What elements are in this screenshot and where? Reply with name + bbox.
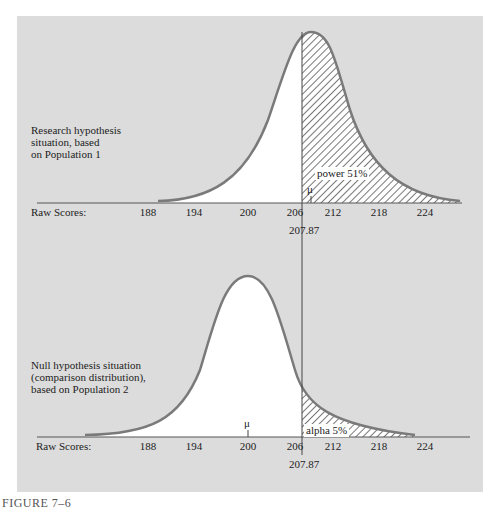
- bottom-tick: 224: [417, 440, 434, 452]
- top-tick: 206: [287, 206, 304, 218]
- top-tick: 194: [186, 206, 203, 218]
- top-axis-label: Raw Scores:: [31, 206, 86, 218]
- research-hypothesis-label: Research hypothesis situation, based on …: [31, 124, 121, 160]
- bottom-tick: 188: [140, 440, 157, 452]
- figure-caption: FIGURE 7–6: [2, 496, 71, 511]
- top-tick: 212: [325, 206, 342, 218]
- top-tick: 224: [417, 206, 434, 218]
- top-tick: 218: [371, 206, 388, 218]
- top-mean-symbol: μ: [307, 183, 313, 195]
- research-distribution-curve: [158, 32, 460, 203]
- top-tick: 200: [240, 206, 257, 218]
- bottom-tick: 218: [371, 440, 388, 452]
- bottom-tick: 194: [186, 440, 203, 452]
- alpha-label: alpha 5%: [304, 424, 349, 437]
- power-label: power 51%: [315, 167, 369, 180]
- null-distribution-curve: [85, 276, 415, 437]
- bottom-tick: 212: [325, 440, 342, 452]
- bottom-cutoff-value: 207.87: [289, 458, 319, 470]
- bottom-mean-symbol: μ: [244, 417, 250, 429]
- distribution-diagram: [0, 0, 497, 512]
- bottom-axis-label: Raw Scores:: [36, 440, 91, 452]
- top-cutoff-value: 207.87: [289, 224, 319, 236]
- null-hypothesis-label: Null hypothesis situation (comparison di…: [31, 359, 146, 395]
- bottom-tick: 206: [287, 440, 304, 452]
- top-tick: 188: [140, 206, 157, 218]
- bottom-tick: 200: [240, 440, 257, 452]
